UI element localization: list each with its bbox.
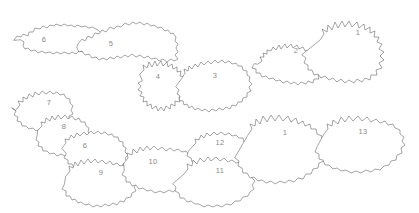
region-label-4: 4 <box>156 73 161 81</box>
region-label-8: 8 <box>62 123 67 131</box>
region-label-9: 9 <box>99 169 104 177</box>
region-map: 6 5 4 3 2 1 7 8 6 9 10 12 11 1 13 <box>0 0 419 213</box>
region-shape-1-top[interactable] <box>302 21 384 83</box>
region-label-2: 2 <box>294 47 299 55</box>
region-label-5: 5 <box>109 40 114 48</box>
region-label-12: 12 <box>215 139 224 147</box>
region-shape-1-bot[interactable] <box>235 115 327 184</box>
region-label-1-top: 1 <box>356 29 361 37</box>
region-label-1-bot: 1 <box>283 129 288 137</box>
region-label-6-top: 6 <box>42 36 47 44</box>
region-label-10: 10 <box>148 158 157 166</box>
region-label-13: 13 <box>358 128 367 136</box>
region-label-7: 7 <box>47 99 52 107</box>
region-label-11: 11 <box>216 167 225 175</box>
region-label-6-bot: 6 <box>83 142 88 150</box>
region-shape-3[interactable] <box>176 60 252 112</box>
region-label-3: 3 <box>213 72 218 80</box>
region-shape-13[interactable] <box>315 116 405 173</box>
